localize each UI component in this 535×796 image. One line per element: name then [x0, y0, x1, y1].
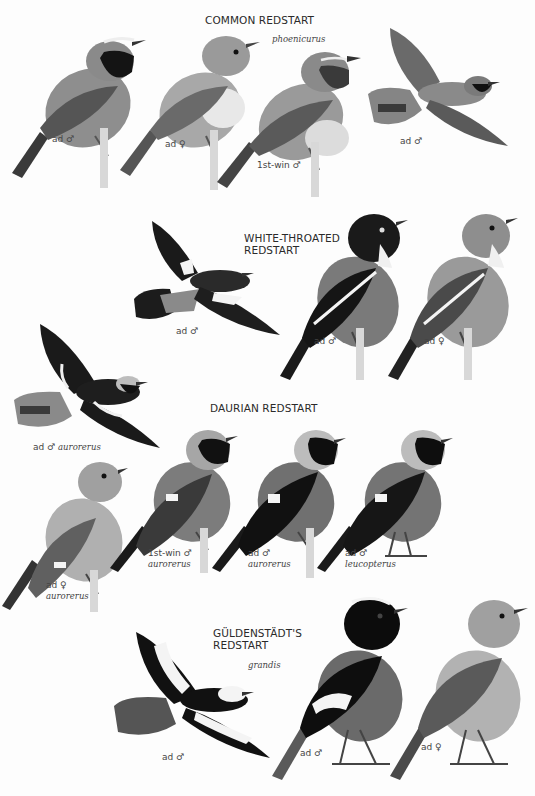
figure-label: ad ♀ aurorerus — [46, 580, 89, 602]
figure-label-age-sex: 1st-win ♂ — [148, 548, 192, 559]
species-title-daurian-redstart: DAURIAN REDSTART — [210, 402, 318, 414]
figure-label: ad ♂ — [162, 752, 184, 763]
guldenstadts-redstart-ad-female-illustration — [390, 596, 530, 781]
figure-label: 1st-win ♂ — [257, 160, 301, 171]
figure-label-age-sex: ad ♀ — [46, 580, 89, 591]
figure-label: ad ♀ — [424, 336, 445, 347]
figure-label-age-sex: ad ♂ — [248, 548, 291, 559]
subspecies-phoenicurus: phoenicurus — [272, 34, 325, 44]
figure-label: ad ♂ — [314, 336, 336, 347]
figure-label-age-sex: ad ♂ — [33, 442, 55, 452]
figure-label: ad ♂ leucopterus — [345, 548, 396, 570]
figure-label-subspecies: aurorerus — [46, 591, 89, 602]
figure-label: ad ♂ — [176, 326, 198, 337]
figure-label: ad ♂ aurorerus — [33, 442, 101, 453]
figure-label: ad ♂ — [52, 134, 74, 145]
field-guide-plate: COMMON REDSTART phoenicurus ad ♂ ad ♀ — [0, 0, 535, 796]
white-throated-redstart-ad-female-illustration — [388, 208, 518, 380]
figure-label-age-sex: ad ♂ — [345, 548, 396, 559]
species-title-common-redstart: COMMON REDSTART — [205, 14, 314, 26]
guldenstadts-redstart-ad-male-flight-illustration — [110, 628, 275, 768]
figure-label-subspecies: aurorerus — [58, 442, 101, 452]
common-redstart-ad-male-flight-illustration — [360, 22, 535, 162]
figure-label-subspecies: aurorerus — [248, 559, 291, 570]
figure-label-subspecies: aurorerus — [148, 559, 192, 570]
figure-label: ad ♂ aurorerus — [248, 548, 291, 570]
figure-label-subspecies: leucopterus — [345, 559, 396, 570]
figure-label: ad ♂ — [300, 748, 322, 759]
figure-label: ad ♂ — [400, 136, 422, 147]
figure-label: ad ♀ — [421, 742, 442, 753]
figure-label: ad ♀ — [165, 139, 186, 150]
figure-label: 1st-win ♂ aurorerus — [148, 548, 192, 570]
common-redstart-1st-win-male-illustration — [215, 52, 365, 197]
